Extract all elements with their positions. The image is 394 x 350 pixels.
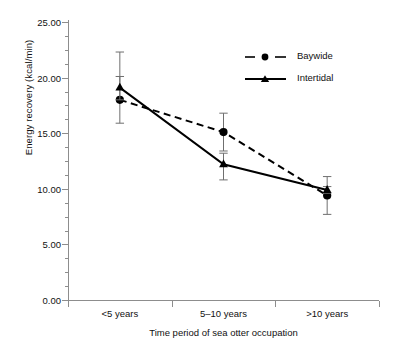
chart-figure: Energy recovery (kcal/min) 0.005.0010.00… xyxy=(0,0,394,350)
chart-legend: Baywide Intertidal xyxy=(243,46,383,90)
solid-line-triangle-marker-icon xyxy=(243,68,289,90)
data-point-triangle xyxy=(219,160,228,168)
legend-item-label: Intertidal xyxy=(297,72,333,83)
data-point-circle xyxy=(219,128,227,136)
error-bar xyxy=(116,52,124,100)
legend-item-0[interactable]: Baywide xyxy=(243,46,383,68)
series-baywide xyxy=(116,76,332,214)
legend-item-label: Baywide xyxy=(297,50,333,61)
dashed-line-circle-marker-icon xyxy=(243,46,289,68)
legend-item-1[interactable]: Intertidal xyxy=(243,68,383,90)
data-point-triangle xyxy=(115,83,124,91)
x-axis-title: Time period of sea otter occupation xyxy=(68,327,379,338)
